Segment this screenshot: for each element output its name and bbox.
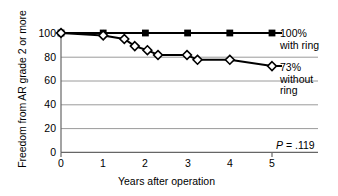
legend-with-ring: 100% with ring [280, 28, 319, 51]
series-without-ring [57, 29, 282, 71]
marker-diamond-5 [154, 51, 163, 60]
legend-with-ring-value: 100% [280, 28, 319, 40]
marker-diamond-9 [268, 62, 277, 71]
marker-square-y4 [226, 30, 233, 37]
marker-diamond-6 [183, 51, 192, 60]
p-value-text: = .119 [283, 139, 315, 151]
marker-square-y5 [269, 30, 276, 37]
legend-without-ring: 73% without ring [280, 62, 313, 97]
p-value-annotation: P = .119 [276, 139, 315, 151]
legend-without-ring-value: 73% [280, 62, 313, 74]
marker-square-y2 [142, 30, 149, 37]
p-symbol: P [276, 139, 283, 151]
marker-diamond-4 [143, 46, 152, 55]
marker-square-y3 [184, 30, 191, 37]
legend-without-ring-desc-2: ring [280, 85, 313, 97]
chart-figure: Freedom from AR grade 2 or more 100 80 6… [0, 0, 338, 196]
legend-with-ring-desc: with ring [280, 40, 319, 52]
